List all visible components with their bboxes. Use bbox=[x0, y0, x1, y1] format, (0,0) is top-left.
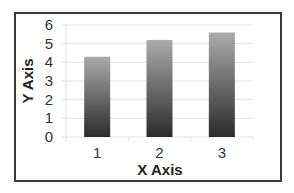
y-tick-label: 1 bbox=[45, 109, 53, 126]
y-tick-label: 6 bbox=[45, 16, 53, 33]
bar-chart: 0123456 123 X Axis Y Axis bbox=[0, 0, 294, 193]
bar-3 bbox=[209, 32, 235, 137]
y-tick-label: 0 bbox=[45, 128, 53, 145]
y-tick-labels: 0123456 bbox=[45, 16, 53, 145]
bar-2 bbox=[147, 40, 173, 137]
y-tick-label: 5 bbox=[45, 35, 53, 52]
x-tick-label: 2 bbox=[155, 144, 163, 161]
y-tick-label: 4 bbox=[45, 53, 53, 70]
y-tick-label: 3 bbox=[45, 72, 53, 89]
y-axis-title: Y Axis bbox=[19, 58, 36, 103]
x-tick-labels: 123 bbox=[93, 144, 226, 161]
x-axis-title: X Axis bbox=[137, 161, 182, 178]
x-tick-label: 3 bbox=[218, 144, 226, 161]
x-tick-label: 1 bbox=[93, 144, 101, 161]
y-tick-label: 2 bbox=[45, 91, 53, 108]
bars bbox=[84, 32, 235, 137]
bar-1 bbox=[84, 57, 110, 137]
